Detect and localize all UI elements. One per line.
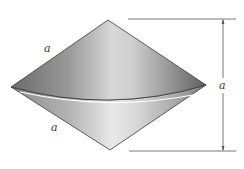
- arrowhead-up-icon: [222, 19, 225, 24]
- label-lower-slant: a: [51, 121, 58, 134]
- double-cone-diagram: a a a: [0, 0, 244, 169]
- upper-cone: [11, 20, 206, 100]
- arrowhead-down-icon: [222, 146, 225, 151]
- label-upper-slant: a: [44, 42, 51, 55]
- label-height: a: [219, 79, 226, 92]
